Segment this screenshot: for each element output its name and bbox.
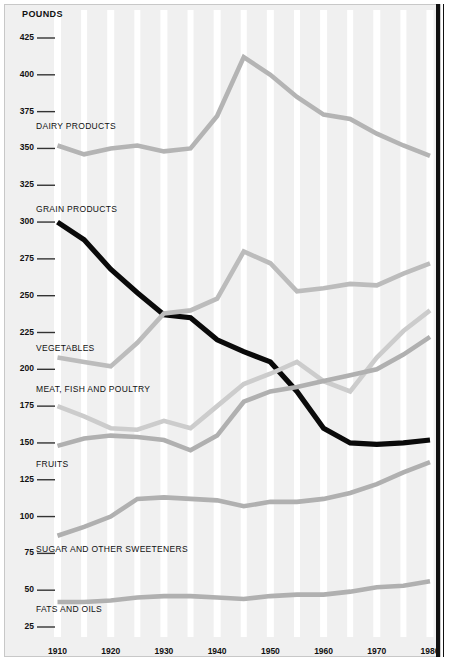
- half-decade-band-1945: [241, 10, 247, 637]
- decade-band-1910: [54, 10, 61, 637]
- y-tick-label-375: 375: [6, 106, 34, 116]
- half-decade-band-1975: [400, 10, 406, 637]
- y-tick-label-175: 175: [6, 400, 34, 410]
- y-tick-label-250: 250: [6, 290, 34, 300]
- series-label-fats: FATS AND OILS: [36, 604, 102, 614]
- x-tick-label-1960: 1960: [304, 646, 344, 656]
- y-tick-label-125: 125: [6, 474, 34, 484]
- x-tick-label-1930: 1930: [144, 646, 184, 656]
- decade-band-1950: [267, 10, 274, 637]
- y-tick-label-325: 325: [6, 179, 34, 189]
- y-tick-label-50: 50: [6, 584, 34, 594]
- y-tick-label-275: 275: [6, 253, 34, 263]
- y-tick-label-150: 150: [6, 437, 34, 447]
- series-label-dairy: DAIRY PRODUCTS: [36, 121, 116, 131]
- half-decade-band-1925: [134, 10, 140, 637]
- y-axis-title: POUNDS: [22, 9, 63, 19]
- decade-band-1970: [373, 10, 380, 637]
- x-tick-label-1980: 1980: [410, 646, 449, 656]
- x-tick-label-1940: 1940: [197, 646, 237, 656]
- series-label-meat: MEAT, FISH AND POULTRY: [36, 384, 150, 394]
- half-decade-band-1965: [347, 10, 353, 637]
- half-decade-band-1915: [81, 10, 87, 637]
- y-tick-label-225: 225: [6, 327, 34, 337]
- y-tick-label-200: 200: [6, 363, 34, 373]
- y-tick-label-25: 25: [6, 621, 34, 631]
- y-tick-label-350: 350: [6, 142, 34, 152]
- series-label-vegetables: VEGETABLES: [36, 343, 95, 353]
- decade-band-1920: [107, 10, 114, 637]
- x-tick-label-1910: 1910: [38, 646, 78, 656]
- right-border-rule-outer: [443, 4, 444, 657]
- y-tick-label-425: 425: [6, 32, 34, 42]
- decade-band-1980: [427, 10, 434, 637]
- half-decade-band-1955: [294, 10, 300, 637]
- decade-band-group: [54, 10, 434, 637]
- x-tick-label-1920: 1920: [91, 646, 131, 656]
- y-tick-label-75: 75: [6, 547, 34, 557]
- half-decade-band-1935: [188, 10, 194, 637]
- x-tick-label-1970: 1970: [357, 646, 397, 656]
- series-label-sugar: SUGAR AND OTHER SWEETENERS: [36, 544, 188, 554]
- decade-band-1940: [214, 10, 221, 637]
- decade-band-1960: [320, 10, 327, 637]
- y-tick-label-100: 100: [6, 511, 34, 521]
- plot-area: [0, 0, 449, 661]
- x-tick-label-1950: 1950: [250, 646, 290, 656]
- decade-band-1930: [160, 10, 167, 637]
- chart-root: POUNDS 425400375350325300275250225200175…: [0, 0, 449, 661]
- y-tick-label-300: 300: [6, 216, 34, 226]
- right-border-rule: [436, 4, 440, 657]
- series-label-fruits: FRUITS: [36, 459, 69, 469]
- y-tick-label-400: 400: [6, 69, 34, 79]
- series-label-grain: GRAIN PRODUCTS: [36, 204, 117, 214]
